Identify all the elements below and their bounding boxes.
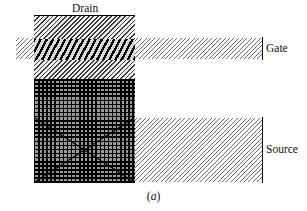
drain-region-fill (34, 16, 135, 39)
figure-caption: (a) (0, 190, 307, 202)
figure-container: Drain Gate Source (a) (0, 0, 307, 211)
gate-bracket-rule (262, 37, 263, 60)
device-column (34, 15, 135, 182)
source-bracket-rule (262, 117, 263, 183)
drain-lower-fill (34, 60, 135, 79)
gate-label: Gate (266, 43, 288, 55)
source-label: Source (266, 144, 298, 156)
cross-diagonal-overlay-icon (34, 79, 135, 183)
drain-label: Drain (72, 3, 98, 15)
channel-region-fill (34, 79, 135, 183)
caption-close-paren: ) (156, 190, 160, 202)
gate-overlap-stripe-fill (34, 39, 135, 60)
source-region-fill (135, 118, 262, 182)
